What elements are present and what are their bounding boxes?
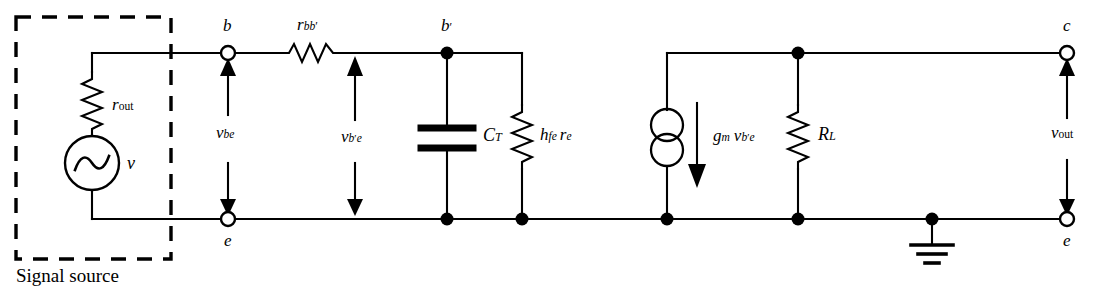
ct-label: CT: [483, 126, 502, 144]
v-bpe-arrow-upper-head: [347, 56, 363, 76]
v-be-label-sub: be: [224, 128, 235, 141]
rl-label: RL: [818, 125, 836, 143]
gm-source-circle-upper: [651, 109, 683, 141]
signal-source-caption: Signal source: [16, 266, 119, 285]
node-b-prime-label: b′: [441, 17, 452, 34]
node-dot-ct-bottom: [441, 213, 454, 226]
source-v-label: v: [127, 154, 135, 172]
r-bb-prime-label: rbb′: [297, 16, 318, 33]
node-dot-hfe-bottom: [516, 213, 529, 226]
r-out-label: rout: [112, 96, 133, 113]
gm-source-circle-lower: [651, 134, 683, 166]
v-bpe-arrow-lower-head: [347, 199, 363, 216]
v-out-label: vout: [1051, 124, 1073, 141]
gm-current-arrow-head: [688, 164, 706, 188]
hfe-re-label: hfere: [540, 126, 572, 143]
v-bpe-label-base: v: [341, 127, 349, 146]
gm-label-sub: m: [722, 131, 730, 144]
r-bb-label-base: r: [297, 15, 304, 34]
node-dot-ground: [926, 213, 939, 226]
sine-wave-glyph: [75, 156, 109, 170]
rl-resistor-body: [788, 105, 808, 169]
gm-v-sub3: e: [749, 131, 754, 144]
node-c-label: c: [1063, 17, 1071, 34]
node-b-label: b: [223, 17, 232, 34]
r-bb-label-prime: ′: [315, 19, 318, 33]
node-dot-b-prime-top: [441, 47, 454, 60]
r-bb-label-sub: bb: [304, 20, 316, 33]
node-e-left-label: e: [224, 232, 232, 249]
node-dot-gm-bottom: [661, 213, 674, 226]
node-dot-rl-bottom: [792, 213, 805, 226]
circuit-schematic-canvas: [0, 0, 1094, 292]
v-bpe-label-sub2: e: [357, 132, 362, 145]
re-label-sub: e: [566, 130, 571, 143]
v-bpe-label: vb′e: [341, 128, 362, 145]
hfe-label-base: h: [540, 125, 549, 144]
terminal-e-right-marker: [1060, 212, 1074, 226]
hfe-label-sub: fe: [549, 130, 557, 143]
v-out-label-sub: out: [1059, 128, 1074, 141]
ct-label-base: C: [483, 125, 495, 145]
node-e-right-label: e: [1063, 232, 1071, 249]
rl-label-sub: L: [829, 129, 836, 143]
ct-label-sub: T: [495, 130, 502, 144]
r-out-label-sub: out: [119, 100, 134, 113]
v-be-label-base: v: [216, 123, 224, 142]
terminal-e-left-marker: [221, 212, 235, 226]
node-b-prime-base: b: [441, 16, 450, 35]
terminal-c-marker: [1060, 46, 1074, 60]
r-out-label-base: r: [112, 95, 119, 114]
r-bb-resistor-body: [283, 44, 338, 62]
gm-label-base: g: [713, 126, 722, 145]
v-out-label-base: v: [1051, 123, 1059, 142]
v-be-label: vbe: [216, 124, 234, 141]
node-dot-rl-top: [792, 47, 805, 60]
node-b-prime-mark: ′: [450, 20, 453, 34]
hfe-re-resistor-body: [512, 105, 532, 169]
circuit-diagram: rout v b e rbb′ vbe vb′e b′ CT hfere gmv…: [0, 0, 1094, 292]
terminal-b-marker: [221, 46, 235, 60]
r-out-resistor-body: [82, 72, 102, 136]
rl-label-base: R: [818, 124, 829, 144]
gm-vbpe-label: gmvb′e: [713, 127, 755, 144]
